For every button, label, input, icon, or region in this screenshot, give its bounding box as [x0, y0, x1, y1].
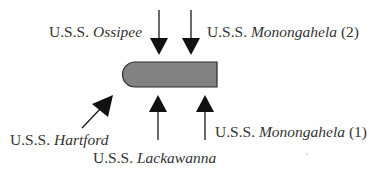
arrow-monongahela-2 [182, 10, 200, 55]
ironclad-target-shape [123, 62, 218, 87]
arrow-hartford [82, 95, 113, 128]
arrow-ossipee [150, 10, 168, 55]
label-lackawanna: U.S.S. Lackawanna [93, 150, 216, 166]
label-hartford: U.S.S. Hartford [10, 132, 108, 148]
label-ossipee: U.S.S. Ossipee [49, 24, 142, 40]
label-monongahela-2: U.S.S. Monongahela (2) [207, 24, 359, 40]
speck [306, 153, 307, 154]
arrow-monongahela-1 [196, 95, 214, 140]
label-monongahela-1: U.S.S. Monongahela (1) [215, 124, 367, 140]
arrow-lackawanna [149, 95, 167, 140]
